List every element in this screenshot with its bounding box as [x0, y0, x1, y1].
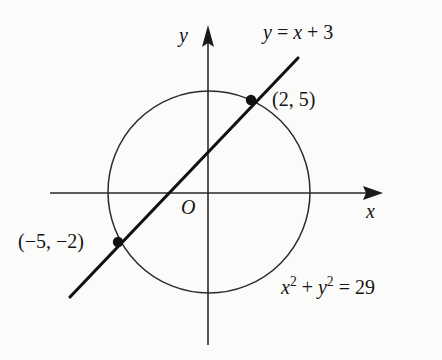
line-eq-y: y: [263, 21, 272, 43]
circle-eq-x-exponent: 2: [290, 274, 297, 289]
math-figure: y x O y = x + 3 (2, 5) (−5, −2) x2 + y2 …: [0, 0, 442, 360]
line-eq-plus: +: [302, 21, 323, 43]
circle-equation-label: x2 + y2 = 29: [281, 275, 375, 297]
point-label-lower: (−5, −2): [18, 231, 84, 251]
x-axis-arrowhead: [363, 186, 383, 200]
line-eq-const: 3: [323, 21, 333, 43]
line-eq-equals: =: [272, 21, 293, 43]
point-label-upper: (2, 5): [272, 89, 315, 109]
point-marker-lower: [113, 237, 123, 247]
line-equation-label: y = x + 3: [263, 22, 333, 42]
circle-eq-y: y: [318, 276, 327, 298]
figure-canvas: [0, 0, 442, 360]
circle-eq-plus: +: [297, 276, 318, 298]
x-axis-label: x: [366, 201, 375, 221]
y-axis-label: y: [179, 25, 188, 45]
circle-eq-equals: =: [334, 276, 355, 298]
circle-eq-const: 29: [355, 276, 375, 298]
line-eq-x: x: [293, 21, 302, 43]
circle-eq-x: x: [281, 276, 290, 298]
circle-eq-y-exponent: 2: [327, 274, 334, 289]
circle-curve: [108, 91, 310, 293]
point-marker-upper: [246, 95, 256, 105]
origin-label: O: [181, 197, 195, 217]
